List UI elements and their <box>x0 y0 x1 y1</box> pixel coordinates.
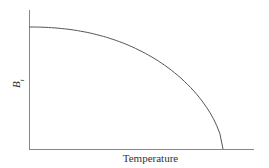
chart-canvas <box>0 0 269 168</box>
y-axis-label: Bt <box>10 76 25 92</box>
x-axis-label: Temperature <box>0 152 269 164</box>
bt-curve <box>29 27 223 149</box>
